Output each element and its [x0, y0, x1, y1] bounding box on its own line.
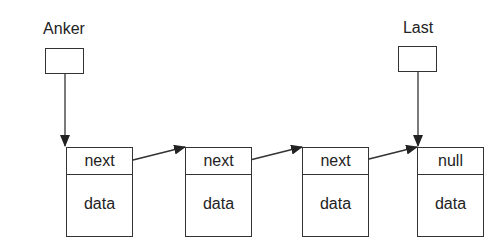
node-data-field: data	[67, 175, 132, 236]
last-pointer-box	[398, 46, 437, 72]
node-next-field: next	[303, 148, 368, 175]
anker-label: Anker	[24, 20, 104, 38]
node-data-field: data	[186, 175, 251, 236]
list-node-4: null data	[417, 147, 484, 237]
last-label: Last	[378, 19, 458, 37]
list-node-2: next data	[185, 147, 252, 237]
next-arrow-1	[129, 147, 185, 161]
node-data-field: data	[303, 175, 368, 236]
next-arrow-3	[361, 147, 417, 161]
linked-list-diagram: Anker Last next data next data next data…	[0, 0, 501, 249]
list-node-1: next data	[66, 147, 133, 237]
list-node-3: next data	[302, 147, 369, 237]
node-next-field: next	[67, 148, 132, 175]
node-next-field: next	[186, 148, 251, 175]
next-arrow-2	[246, 147, 302, 161]
node-null-field: null	[418, 148, 483, 175]
anker-pointer-box	[45, 48, 84, 74]
node-data-field: data	[418, 175, 483, 236]
